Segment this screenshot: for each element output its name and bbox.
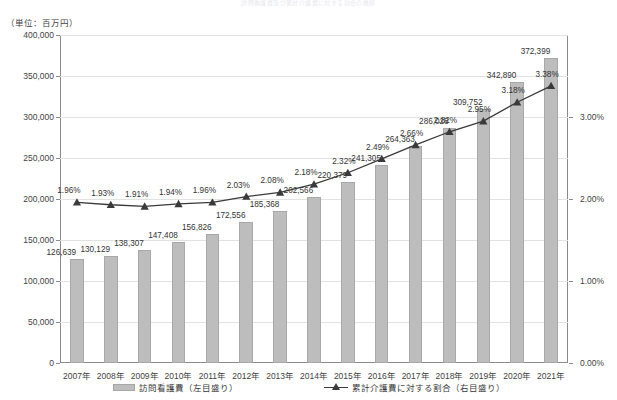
- x-axis-tick-label: 2016年: [365, 369, 399, 381]
- y-axis-left-tick-label: 50,000: [0, 317, 54, 327]
- bar: [341, 182, 355, 363]
- y-axis-left-tick: [56, 322, 60, 323]
- x-axis-tick-label: 2008年: [94, 369, 128, 381]
- chart-legend: 訪問看護費（左目盛り） 累計介護費に対する割合（右目盛り）: [0, 381, 617, 393]
- x-axis-tick-label: 2014年: [297, 369, 331, 381]
- line-value-label: 2.49%: [358, 143, 398, 152]
- x-axis-tick-label: 2011年: [195, 369, 229, 381]
- bar: [477, 109, 491, 363]
- bar: [443, 128, 457, 363]
- x-axis-tick-label: 2007年: [60, 369, 94, 381]
- line-value-label: 3.18%: [493, 86, 533, 95]
- y-axis-right-tick-label: 0.00%: [580, 358, 617, 368]
- x-axis-tick-label: 2018年: [433, 369, 467, 381]
- bar: [307, 197, 321, 363]
- y-axis-left-tick: [56, 281, 60, 282]
- y-axis-left-tick: [56, 117, 60, 118]
- y-axis-left-tick: [56, 35, 60, 36]
- x-axis-tick-label: 2021年: [534, 369, 568, 381]
- bar-value-label: 147,408: [146, 231, 180, 240]
- bar: [544, 58, 558, 363]
- x-axis-tick-label: 2010年: [162, 369, 196, 381]
- bar: [138, 250, 152, 363]
- bar-value-label: 156,826: [180, 223, 214, 232]
- bar: [239, 222, 253, 363]
- bar: [104, 256, 118, 363]
- line-value-label: 2.18%: [286, 168, 326, 177]
- bar-value-label: 138,307: [112, 239, 146, 248]
- bar-value-label: 185,368: [248, 200, 282, 209]
- y-axis-left-tick-label: 150,000: [0, 235, 54, 245]
- y-axis-left-tick-label: 0: [0, 358, 54, 368]
- gridline: [60, 117, 568, 118]
- bar-swatch-icon: [113, 384, 135, 391]
- y-axis-right-tick: [569, 281, 573, 282]
- x-axis-tick-label: 2019年: [466, 369, 500, 381]
- bar: [70, 259, 84, 363]
- bar: [273, 211, 287, 363]
- chart-title-cropped: 訪問看護費及び累計介護費に対する割合の推移: [0, 0, 617, 7]
- y-axis-left-tick-label: 250,000: [0, 153, 54, 163]
- y-axis-left-tick: [56, 240, 60, 241]
- x-axis-tick-label: 2013年: [263, 369, 297, 381]
- line-value-label: 3.38%: [527, 70, 567, 79]
- y-axis-left-tick-label: 300,000: [0, 112, 54, 122]
- legend-label-bar: 訪問看護費（左目盛り）: [139, 381, 238, 393]
- line-value-label: 2.82%: [425, 116, 465, 125]
- y-axis-left-tick: [56, 76, 60, 77]
- y-axis-right-tick-label: 1.00%: [580, 276, 617, 286]
- x-axis-tick-label: 2009年: [128, 369, 162, 381]
- y-axis-left-tick: [56, 199, 60, 200]
- line-marker-icon: [324, 383, 348, 392]
- y-axis-left-tick: [56, 363, 60, 364]
- y-axis-right-tick-label: 3.00%: [580, 112, 617, 122]
- gridline: [60, 35, 568, 36]
- bar-value-label: 342,890: [485, 71, 519, 80]
- bar-value-label: 172,556: [214, 211, 248, 220]
- bar-value-label: 126,639: [44, 248, 78, 257]
- line-value-label: 2.32%: [324, 157, 364, 166]
- y-axis-left-tick-label: 350,000: [0, 71, 54, 81]
- y-axis-left-tick: [56, 158, 60, 159]
- line-value-label: 2.66%: [392, 129, 432, 138]
- chart-container: 訪問看護費及び累計介護費に対する割合の推移 （単位：百万円） 050,00010…: [0, 0, 617, 400]
- x-axis-tick-label: 2015年: [331, 369, 365, 381]
- y-axis-right-tick: [569, 363, 573, 364]
- legend-item-bar: 訪問看護費（左目盛り）: [113, 381, 238, 393]
- gridline: [60, 158, 568, 159]
- unit-note: （単位：百万円）: [6, 16, 78, 28]
- y-axis-left-tick-label: 400,000: [0, 30, 54, 40]
- bar: [510, 82, 524, 363]
- bar-value-label: 372,399: [519, 47, 553, 56]
- bar: [409, 146, 423, 363]
- line-value-label: 2.95%: [459, 105, 499, 114]
- y-axis-left-tick-label: 200,000: [0, 194, 54, 204]
- x-axis-tick-label: 2012年: [229, 369, 263, 381]
- bar: [206, 234, 220, 363]
- bar: [172, 242, 186, 363]
- line-value-label: 2.08%: [252, 176, 292, 185]
- y-axis-right-tick: [569, 117, 573, 118]
- x-axis-tick-label: 2017年: [399, 369, 433, 381]
- bar: [375, 165, 389, 363]
- y-axis-left-tick-label: 100,000: [0, 276, 54, 286]
- bar-value-label: 130,129: [78, 245, 112, 254]
- legend-label-line: 累計介護費に対する割合（右目盛り）: [352, 381, 505, 393]
- x-axis-tick-label: 2020年: [500, 369, 534, 381]
- legend-item-line: 累計介護費に対する割合（右目盛り）: [324, 381, 505, 393]
- y-axis-right-tick-label: 2.00%: [580, 194, 617, 204]
- y-axis-right-tick: [569, 199, 573, 200]
- bar-value-label: 202,566: [281, 186, 315, 195]
